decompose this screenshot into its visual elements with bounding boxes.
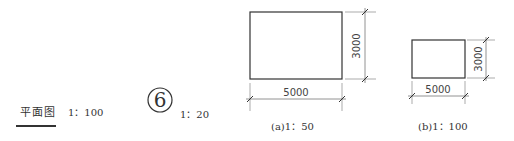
rectangle-a (250, 12, 342, 79)
dimension-width-b: 5000 (425, 84, 450, 95)
dimension-height-a: 3000 (351, 33, 362, 58)
drawing-a: 3000 5000 (246, 8, 376, 111)
dimension-width-a: 5000 (283, 87, 308, 98)
detail-scale: 1：20 (180, 106, 209, 121)
rectangle-b (412, 40, 465, 78)
caption-b: (b)1：100 (418, 118, 468, 133)
drawing-b: 3000 5000 (408, 37, 495, 104)
detail-index-number: 6 (154, 88, 167, 112)
caption-a: (a)1：50 (271, 118, 314, 133)
dimension-height-b: 3000 (473, 46, 484, 71)
detail-index-symbol: 6 (148, 88, 172, 112)
